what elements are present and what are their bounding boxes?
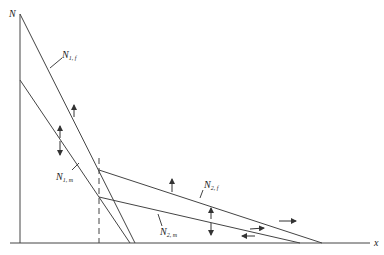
curve-n1f	[20, 14, 135, 243]
label-n2m: N2, m	[160, 227, 177, 238]
curve-n1m	[20, 80, 130, 243]
label-n1f: N1, f	[62, 50, 76, 61]
diagram-graphics	[0, 0, 384, 255]
curve-n2m	[99, 197, 300, 243]
x-axis-label: x	[374, 238, 378, 248]
label-n2f: N2, f	[204, 180, 218, 191]
diagram-canvas: N x N1, f N1, m N2, f N2, m	[0, 0, 384, 255]
arrows	[60, 105, 296, 236]
arrow-right-icon	[250, 228, 264, 229]
y-axis-label: N	[9, 9, 16, 19]
label-n1m: N1, m	[56, 172, 73, 183]
